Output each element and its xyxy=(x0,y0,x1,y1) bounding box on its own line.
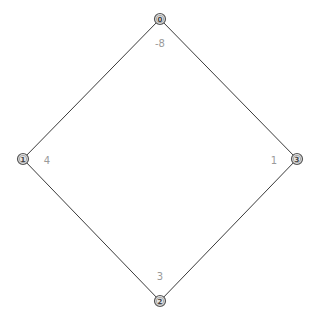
edge-1-2 xyxy=(27,163,156,297)
weight-labels-group: -8431 xyxy=(44,38,277,282)
edge-0-3 xyxy=(164,23,293,155)
edge-3-2 xyxy=(164,163,293,297)
graph-node-2[interactable]: 2 xyxy=(155,296,166,307)
node-id-label: 1 xyxy=(21,156,26,164)
node-value-label-0: -8 xyxy=(155,38,165,49)
node-id-label: 2 xyxy=(158,298,163,306)
node-value-label-2: 3 xyxy=(157,271,163,282)
edges-group xyxy=(27,23,293,297)
graph-node-1[interactable]: 1 xyxy=(18,154,29,165)
node-id-label: 3 xyxy=(295,156,300,164)
node-id-label: 0 xyxy=(158,16,163,24)
node-value-label-1: 4 xyxy=(44,155,50,166)
graph-node-3[interactable]: 3 xyxy=(292,154,303,165)
graph-diagram: -8431 0123 xyxy=(0,0,318,321)
edge-0-1 xyxy=(27,23,156,155)
nodes-group: 0123 xyxy=(18,14,303,307)
graph-node-0[interactable]: 0 xyxy=(155,14,166,25)
node-value-label-3: 1 xyxy=(271,155,277,166)
